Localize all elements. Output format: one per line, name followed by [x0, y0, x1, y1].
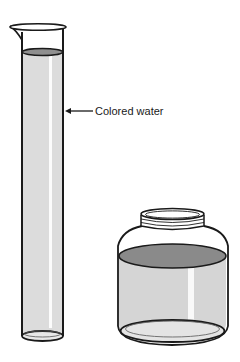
- graduated-cylinder: [10, 24, 66, 341]
- cylinder-liquid-surface: [23, 49, 63, 56]
- colored-water-label: Colored water: [95, 105, 163, 117]
- annotation-arrow: [65, 108, 93, 114]
- cylinder-highlight: [49, 56, 52, 328]
- figure: Colored water: [0, 0, 240, 362]
- jar-base: [121, 320, 225, 342]
- cylinder-liquid: [23, 52, 62, 334]
- arrow-head-icon: [65, 108, 71, 114]
- cylinder-rim: [10, 24, 66, 30]
- jar-liquid-surface: [119, 244, 226, 268]
- jar: [118, 209, 228, 346]
